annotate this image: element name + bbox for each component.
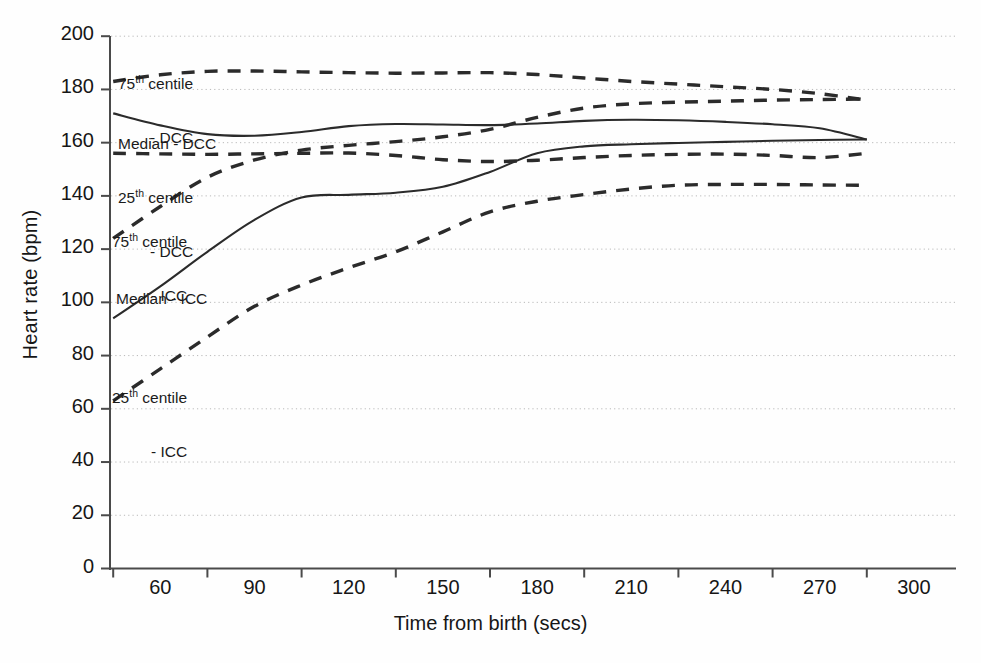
x-tick-label-300: 300 xyxy=(874,576,954,599)
y-tick-label-40: 40 xyxy=(28,448,94,471)
series-line-25th-centile-icc xyxy=(113,184,867,400)
y-tick-label-20: 20 xyxy=(28,501,94,524)
annotation-line-1: 25th centile xyxy=(112,389,187,407)
y-tick-label-100: 100 xyxy=(28,288,94,311)
x-axis-title-text: Time from birth (secs) xyxy=(0,612,981,635)
y-tick-label-120: 120 xyxy=(28,235,94,258)
y-axis-ticks xyxy=(101,36,110,568)
x-tick-label-120: 120 xyxy=(309,576,389,599)
gridlines xyxy=(111,36,956,515)
annotation-line-1: Median - DCC xyxy=(118,135,216,153)
series-line-25th-centile-dcc xyxy=(113,153,867,162)
y-tick-label-160: 160 xyxy=(28,129,94,152)
series-line-median-icc xyxy=(113,139,867,318)
y-tick-label-200: 200 xyxy=(28,22,94,45)
y-tick-label-80: 80 xyxy=(28,342,94,365)
chart-figure: Heart rate (bpm) Time from birth (secs) … xyxy=(0,0,981,663)
series-line-75th-centile-dcc xyxy=(113,71,867,100)
x-tick-label-90: 90 xyxy=(215,576,295,599)
x-tick-label-270: 270 xyxy=(780,576,860,599)
annotation-line-2: - ICC xyxy=(112,443,187,461)
x-tick-label-240: 240 xyxy=(686,576,766,599)
annotation-25th-centile-icc: 25th centile - ICC xyxy=(112,352,187,498)
ordinal-suffix: th xyxy=(129,386,138,398)
annotation-line-1: 75th centile xyxy=(118,75,193,93)
x-tick-label-180: 180 xyxy=(497,576,577,599)
series-paths xyxy=(113,71,867,401)
annotation-line-1: Median - ICC xyxy=(116,290,207,308)
annotation-line-1: 75th centile xyxy=(112,233,187,251)
series-line-75th-centile-icc xyxy=(113,99,867,238)
y-tick-label-180: 180 xyxy=(28,75,94,98)
y-axis-title-text: Heart rate (bpm) xyxy=(20,209,43,359)
y-tick-label-60: 60 xyxy=(28,395,94,418)
annotation-median-icc: Median - ICC xyxy=(116,253,207,344)
x-tick-label-210: 210 xyxy=(591,576,671,599)
ordinal-suffix: th xyxy=(129,230,138,242)
x-tick-label-60: 60 xyxy=(120,576,200,599)
axes xyxy=(110,36,956,570)
series-line-median-dcc xyxy=(113,113,867,139)
ordinal-suffix: th xyxy=(135,72,144,84)
y-tick-label-140: 140 xyxy=(28,182,94,205)
y-tick-label-0: 0 xyxy=(28,555,94,578)
x-tick-label-150: 150 xyxy=(403,576,483,599)
